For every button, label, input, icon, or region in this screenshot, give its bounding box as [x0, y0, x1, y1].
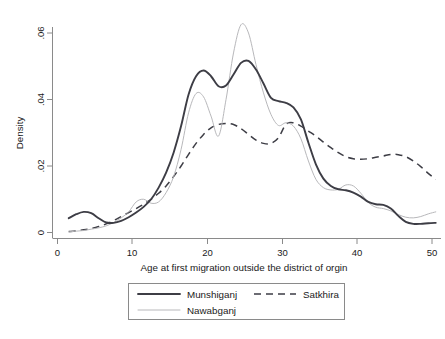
legend-label-satkhira: Satkhira [303, 289, 339, 300]
chart-canvas: 0 .02 .04 .06 Density 0 10 20 30 40 50 A… [0, 0, 445, 339]
x-axis-title: Age at first migration outside the distr… [141, 262, 348, 273]
x-tick-label-40: 40 [352, 247, 363, 258]
x-axis-ticks [58, 239, 433, 245]
x-tick-label-0: 0 [55, 247, 60, 258]
x-tick-label-20: 20 [202, 247, 213, 258]
y-tick-label-04: .04 [35, 93, 46, 106]
y-tick-label-0: 0 [35, 230, 46, 235]
y-tick-label-06: .06 [35, 26, 46, 39]
y-axis-title: Density [14, 117, 25, 150]
density-plot-figure: 0 .02 .04 .06 Density 0 10 20 30 40 50 A… [0, 0, 445, 339]
series-line-satkhira [69, 123, 436, 232]
series-line-nawabganj [69, 24, 436, 232]
legend-label-nawabganj: Nawabganj [187, 305, 236, 316]
x-tick-label-10: 10 [127, 247, 138, 258]
x-tick-label-30: 30 [277, 247, 288, 258]
y-axis-ticks [47, 33, 53, 233]
legend-label-munshiganj: Munshiganj [187, 289, 237, 300]
x-tick-label-50: 50 [427, 247, 438, 258]
y-tick-label-02: .02 [35, 159, 46, 172]
series-line-munshiganj [69, 60, 436, 224]
chart-legend: Munshiganj Satkhira Nawabganj [129, 284, 345, 320]
